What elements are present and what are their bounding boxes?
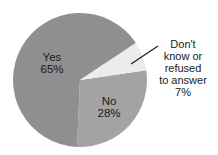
slice-label-dont-know: Don't know or refused to answer 7% xyxy=(150,38,216,98)
slice-name-dont-know-line-2: know or xyxy=(150,50,216,62)
pie-slices xyxy=(13,13,147,147)
slice-value-no: 28% xyxy=(89,108,129,120)
slice-value-yes: 65% xyxy=(32,64,72,76)
slice-label-no: No 28% xyxy=(89,96,129,119)
slice-name-dont-know-line-1: Don't xyxy=(150,38,216,50)
slice-value-dont-know: 7% xyxy=(150,86,216,98)
slice-name-yes: Yes xyxy=(32,52,72,64)
slice-name-dont-know-line-4: to answer xyxy=(150,74,216,86)
slice-name-dont-know-line-3: refused xyxy=(150,62,216,74)
slice-label-yes: Yes 65% xyxy=(32,52,72,75)
slice-name-no: No xyxy=(89,96,129,108)
